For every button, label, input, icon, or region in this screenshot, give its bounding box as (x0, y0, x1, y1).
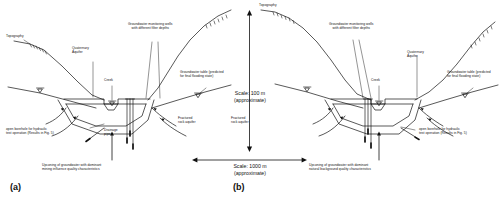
creek-channel (104, 104, 118, 110)
quaternary-layer-top (64, 99, 150, 104)
panel-a-drawing (0, 0, 232, 207)
vertical-arrow-head-bottom (247, 147, 252, 152)
label-creek: Creek (104, 78, 113, 82)
panel-tag-a: (a) (10, 182, 21, 192)
label-groundwater-table: Groundwater table (predicted for final f… (180, 70, 224, 78)
scale-reference-group: Scale: 100 m (approximate) Scale: 1000 m… (232, 0, 267, 207)
bedrock-boundary (325, 100, 421, 134)
water-table-symbols (304, 87, 469, 105)
well-filter-screens (365, 129, 371, 148)
panel-b-drawing (267, 0, 499, 207)
label-drainage-pipe: Drainage pipe (104, 128, 118, 136)
label-monitoring-wells: Groundwater monitoring wells with differ… (128, 22, 173, 30)
groundwater-table-left (275, 84, 363, 108)
cross-section-panel-b: Topography Quaternary Aquifer Groundwate… (267, 0, 499, 207)
cross-section-panel-a: Topography Quaternary Aquifer Groundwate… (0, 0, 232, 207)
label-topography: Topography (6, 34, 24, 38)
label-fractured-rock-a: Fractured rock aquifer (178, 116, 196, 124)
label-creek: Creek (371, 78, 380, 82)
ground-hachure-left (30, 44, 47, 54)
groundwater-table-right (419, 85, 498, 108)
label-upconing: Upconing of groundwater with dominant mi… (42, 163, 101, 171)
creek-channel (371, 104, 385, 110)
label-groundwater-table: Groundwater table (predicted for final f… (447, 70, 491, 78)
label-quaternary-aquifer: Quaternary Aquifer (407, 50, 424, 58)
label-monitoring-wells: Groundwater monitoring wells with differ… (329, 22, 374, 30)
topography-line-right (415, 22, 495, 100)
ground-hachure-left (273, 12, 294, 24)
label-open-borehole: open borehole for hydraulic test operati… (419, 127, 467, 135)
label-fractured-rock: Fractured rock aquifer (231, 116, 249, 124)
groundwater-table-left (8, 87, 96, 108)
ground-hachure-right (471, 26, 492, 48)
quaternary-layer-top (331, 99, 417, 104)
open-borehole-screen (86, 139, 90, 142)
label-open-borehole: open borehole for hydraulic test operati… (6, 127, 54, 135)
flow-arrows-left (313, 108, 345, 136)
label-quaternary-aquifer: Quaternary Aquifer (72, 46, 89, 54)
label-upconing: Upconing of groundwater with dominant na… (309, 163, 371, 171)
label-topography: Topography (259, 3, 277, 7)
topography-line-left (14, 41, 104, 100)
upconing-arrow (377, 132, 381, 161)
leader-lines (24, 40, 206, 128)
panel-tag-b: (b) (233, 182, 245, 192)
water-table-symbols (37, 88, 202, 105)
open-borehole-screen (415, 137, 419, 139)
vertical-arrow-head-top (247, 10, 252, 15)
